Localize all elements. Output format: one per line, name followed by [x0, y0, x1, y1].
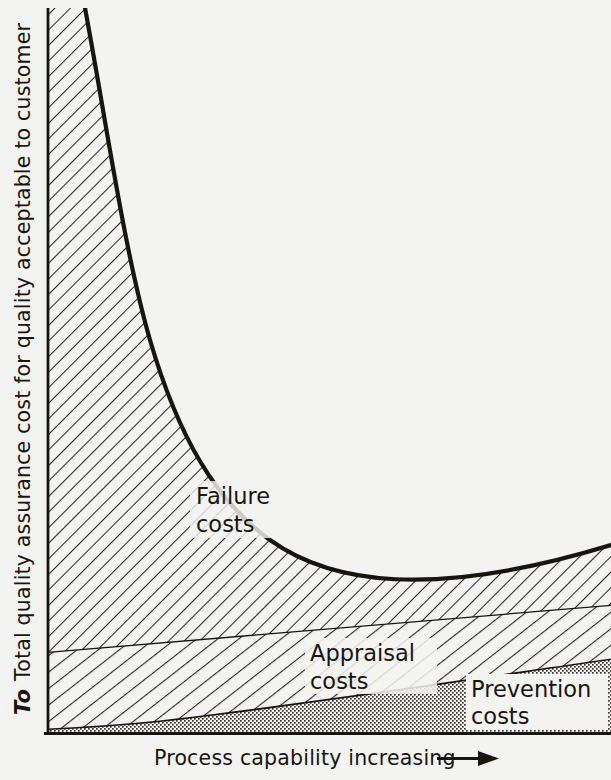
y-axis-origin-label: To	[11, 689, 35, 715]
prevention-region-label: Prevention costs	[466, 674, 608, 730]
prevention-region-label-line1: Prevention	[471, 676, 591, 702]
failure-region-label-line2: costs	[196, 511, 254, 537]
failure-region-label: Failure costs	[190, 481, 306, 538]
figure-canvas: Total quality assurance cost for quality…	[0, 0, 611, 780]
appraisal-region-label: Appraisal costs	[305, 638, 437, 694]
prevention-region-label-line2: costs	[471, 703, 529, 729]
x-axis-label: Process capability increasing	[154, 746, 456, 770]
failure-region-label-line1: Failure	[196, 483, 270, 509]
appraisal-region-label-line2: costs	[310, 668, 368, 694]
quality-cost-chart: Total quality assurance cost for quality…	[0, 0, 611, 780]
failure-cost-region	[48, 8, 611, 653]
appraisal-region-label-line1: Appraisal	[310, 640, 415, 666]
y-axis-label: Total quality assurance cost for quality…	[11, 22, 35, 682]
